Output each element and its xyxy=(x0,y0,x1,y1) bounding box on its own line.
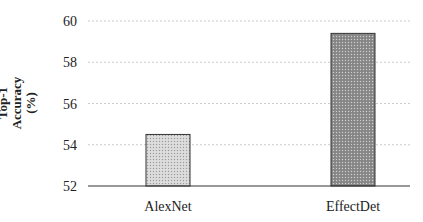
y-tick-label: 54 xyxy=(63,138,77,153)
x-tick-label: EffectDet xyxy=(326,199,380,214)
bars xyxy=(146,33,375,186)
y-tick-label: 56 xyxy=(63,97,77,112)
x-tick-labels: AlexNetEffectDet xyxy=(144,199,380,214)
y-tick-label: 58 xyxy=(63,55,77,70)
bar-effectdet xyxy=(331,33,375,186)
bar-alexnet xyxy=(146,134,190,186)
y-tick-label: 60 xyxy=(63,14,77,29)
bar-chart: 5254565860 AlexNetEffectDet xyxy=(0,0,423,222)
x-tick-label: AlexNet xyxy=(144,199,192,214)
y-tick-labels: 5254565860 xyxy=(63,14,77,194)
y-tick-label: 52 xyxy=(63,179,77,194)
